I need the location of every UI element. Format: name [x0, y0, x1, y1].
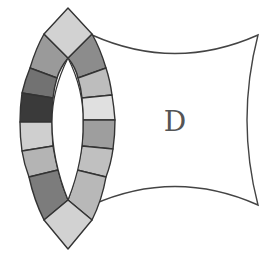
quilt-diagram: D	[0, 0, 265, 261]
right-segment-3	[82, 95, 115, 120]
left-segment-3	[20, 93, 53, 122]
right-segment-4	[82, 120, 115, 149]
patch-label: D	[164, 105, 186, 138]
